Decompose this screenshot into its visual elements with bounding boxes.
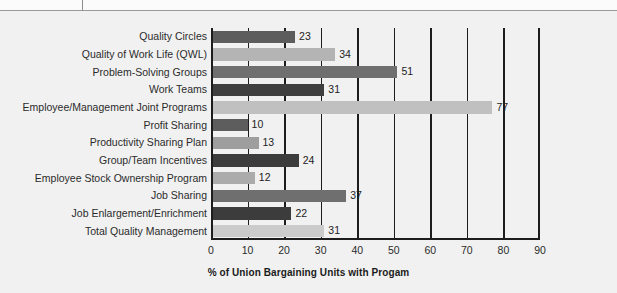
bar — [211, 48, 335, 60]
x-tick-label: 40 — [344, 244, 370, 256]
x-axis-title: % of Union Bargaining Units with Progam — [0, 267, 617, 278]
bar — [211, 31, 295, 43]
category-label: Work Teams — [7, 84, 207, 95]
bar-row: 77 — [211, 99, 540, 117]
bar-row: 24 — [211, 152, 540, 170]
bar-value-label: 37 — [350, 189, 362, 201]
bar — [211, 119, 248, 131]
x-tick-label: 30 — [308, 244, 334, 256]
category-label: Employee/Management Joint Programs — [7, 102, 207, 113]
x-tick-label: 10 — [235, 244, 261, 256]
bar — [211, 154, 299, 166]
x-tick-label: 50 — [381, 244, 407, 256]
category-label: Job Enlargement/Enrichment — [7, 208, 207, 219]
bar-value-label: 51 — [401, 65, 413, 77]
bar-value-label: 23 — [299, 30, 311, 42]
page-margin-strip — [0, 0, 617, 10]
bar-row: 34 — [211, 46, 540, 64]
bar — [211, 172, 255, 184]
bar-value-label: 12 — [259, 171, 271, 183]
bar-chart: Quality CirclesQuality of Work Life (QWL… — [0, 11, 617, 293]
bar-value-label: 24 — [303, 154, 315, 166]
x-tick-label: 20 — [271, 244, 297, 256]
plot-right-border — [538, 28, 540, 240]
bar-row: 13 — [211, 134, 540, 152]
x-axis-line — [211, 238, 540, 240]
bar-value-label: 13 — [263, 136, 275, 148]
page-vertical-rule — [82, 0, 83, 11]
x-tick-label: 70 — [454, 244, 480, 256]
bar-row: 51 — [211, 63, 540, 81]
scanned-page-background: Quality CirclesQuality of Work Life (QWL… — [0, 0, 617, 293]
x-tick-label: 60 — [417, 244, 443, 256]
bar-row: 37 — [211, 187, 540, 205]
category-label: Profit Sharing — [7, 120, 207, 131]
bar — [211, 101, 492, 113]
category-label: Productivity Sharing Plan — [7, 137, 207, 148]
bar — [211, 207, 291, 219]
bar — [211, 66, 397, 78]
plot-area: 233451317710132412372231 — [211, 28, 540, 240]
x-tick-label: 0 — [198, 244, 224, 256]
x-tick-label: 80 — [490, 244, 516, 256]
bar-value-label: 34 — [339, 48, 351, 60]
x-tick-label: 90 — [527, 244, 553, 256]
category-label: Quality Circles — [7, 31, 207, 42]
bar-row: 31 — [211, 81, 540, 99]
bar-value-label: 31 — [328, 83, 340, 95]
bar-value-label: 77 — [496, 101, 508, 113]
bar — [211, 84, 324, 96]
bar — [211, 225, 324, 237]
bar-row: 10 — [211, 116, 540, 134]
bar-value-label: 22 — [295, 207, 307, 219]
bar-row: 23 — [211, 28, 540, 46]
category-label: Group/Team Incentives — [7, 155, 207, 166]
y-axis-line — [211, 28, 213, 240]
bar — [211, 190, 346, 202]
bar-row: 22 — [211, 205, 540, 223]
category-label: Quality of Work Life (QWL) — [7, 49, 207, 60]
bar-row: 12 — [211, 169, 540, 187]
bar-value-label: 31 — [328, 224, 340, 236]
category-label: Problem-Solving Groups — [7, 67, 207, 78]
bar-value-label: 10 — [252, 118, 264, 130]
category-label: Total Quality Management — [7, 226, 207, 237]
category-label: Employee Stock Ownership Program — [7, 173, 207, 184]
category-label: Job Sharing — [7, 190, 207, 201]
bar — [211, 137, 259, 149]
